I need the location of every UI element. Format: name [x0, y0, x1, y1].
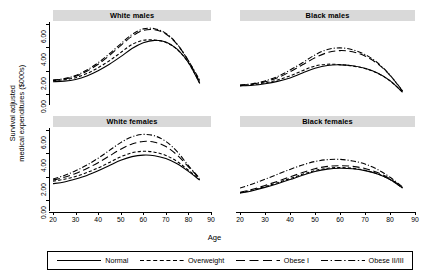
x-tick-3-0: [240, 212, 241, 215]
x-tick-2-6: [188, 212, 189, 215]
x-tick-2-4: [143, 212, 144, 215]
series-line-overweight: [240, 64, 403, 92]
x-axis-title: Age: [0, 233, 429, 242]
series-line-obese-i: [53, 141, 200, 180]
x-tick-3-7: [415, 212, 416, 215]
panel-title-black-females: Black females: [240, 116, 415, 127]
series-line-obese-ii-iii: [240, 159, 403, 188]
x-tick-2-2: [98, 212, 99, 215]
panel-white-females: White females: [53, 116, 211, 214]
y-axis-spine-0: [49, 22, 50, 105]
x-tick-3-2: [290, 212, 291, 215]
panel-white-males: White males: [53, 10, 211, 108]
legend-item-obese-i[interactable]: Obese I: [235, 256, 309, 265]
x-tick-label-2-3: 50: [114, 216, 128, 223]
series-line-normal: [240, 65, 403, 92]
legend-item-obese-ii-iii[interactable]: Obese II/III: [320, 256, 404, 265]
y-tick-label-0-0: 0.00: [40, 94, 47, 120]
x-tick-label-3-6: 80: [383, 216, 397, 223]
x-tick-3-6: [390, 212, 391, 215]
y-tick-label-2-2: 4.00: [40, 153, 47, 179]
legend-swatch-normal: [56, 257, 102, 264]
legend-label-overweight: Overweight: [188, 256, 224, 265]
x-tick-label-3-2: 40: [283, 216, 297, 223]
x-tick-3-4: [340, 212, 341, 215]
y-axis-title-line2: medical expenditures ($000s): [17, 65, 26, 162]
x-tick-label-2-2: 40: [91, 216, 105, 223]
y-tick-label-0-1: 2.00: [40, 70, 47, 96]
x-tick-2-1: [76, 212, 77, 215]
legend: Normal Overweight Obese I Obese II/III: [47, 251, 413, 270]
x-axis-spine-3: [236, 212, 416, 213]
curves-white-females: [53, 127, 211, 214]
x-tick-label-3-5: 70: [358, 216, 372, 223]
x-tick-label-2-1: 30: [69, 216, 83, 223]
plot-area-white-males: [53, 21, 211, 108]
x-tick-label-2-4: 60: [136, 216, 150, 223]
legend-label-obese-ii-iii: Obese II/III: [369, 256, 404, 265]
y-tick-label-0-3: 6.00: [40, 24, 47, 50]
x-tick-label-2-6: 80: [181, 216, 195, 223]
panel-title-white-males: White males: [53, 10, 211, 21]
panel-black-females: Black females: [240, 116, 415, 214]
y-axis-spine-2: [49, 128, 50, 211]
curves-black-males: [240, 21, 415, 108]
series-line-obese-ii-iii: [53, 28, 200, 80]
x-tick-3-3: [315, 212, 316, 215]
series-line-overweight: [240, 168, 403, 193]
figure-root: Survival adjustedmedical expenditures ($…: [0, 0, 429, 278]
legend-label-obese-i: Obese I: [284, 256, 309, 265]
legend-item-normal[interactable]: Normal: [56, 256, 128, 265]
curves-black-females: [240, 127, 415, 214]
x-tick-3-5: [365, 212, 366, 215]
x-tick-3-1: [265, 212, 266, 215]
y-tick-label-2-3: 6.00: [40, 130, 47, 156]
legend-swatch-overweight: [139, 257, 185, 264]
x-tick-label-2-7: 90: [204, 216, 218, 223]
series-line-overweight: [53, 151, 200, 181]
panel-title-black-males: Black males: [240, 10, 415, 21]
series-line-obese-i: [240, 51, 403, 92]
x-tick-label-3-3: 50: [308, 216, 322, 223]
series-line-normal: [53, 155, 200, 184]
series-line-obese-ii-iii: [53, 134, 200, 179]
plot-area-black-males: [240, 21, 415, 108]
legend-label-normal: Normal: [105, 256, 128, 265]
legend-item-overweight[interactable]: Overweight: [139, 256, 224, 265]
y-tick-label-2-1: 2.00: [40, 176, 47, 202]
panel-title-white-females: White females: [53, 116, 211, 127]
x-tick-label-2-5: 70: [159, 216, 173, 223]
plot-area-black-females: [240, 127, 415, 214]
x-tick-label-3-7: 90: [408, 216, 422, 223]
y-tick-label-0-2: 4.00: [40, 47, 47, 73]
legend-swatch-obese-ii-iii: [320, 257, 366, 264]
x-tick-2-0: [53, 212, 54, 215]
x-tick-2-5: [166, 212, 167, 215]
x-tick-label-3-0: 20: [233, 216, 247, 223]
x-tick-label-2-0: 20: [46, 216, 60, 223]
series-line-obese-i: [53, 29, 200, 81]
x-tick-label-3-1: 30: [258, 216, 272, 223]
y-axis-title-line1: Survival adjusted: [8, 85, 17, 141]
x-tick-2-3: [121, 212, 122, 215]
series-line-normal: [240, 168, 403, 193]
curves-white-males: [53, 21, 211, 108]
panel-black-males: Black males: [240, 10, 415, 108]
x-tick-2-7: [211, 212, 212, 215]
y-axis-title: Survival adjustedmedical expenditures ($…: [8, 13, 26, 213]
x-tick-label-3-4: 60: [333, 216, 347, 223]
plot-area-white-females: [53, 127, 211, 214]
legend-swatch-obese-i: [235, 257, 281, 264]
